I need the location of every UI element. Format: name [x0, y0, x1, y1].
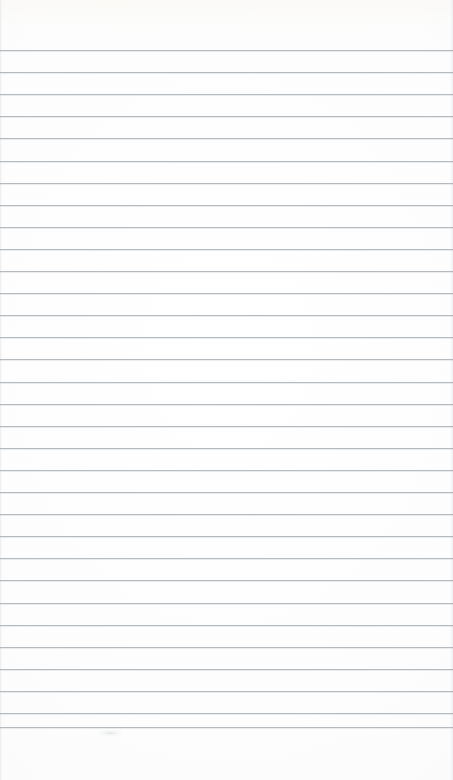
rule-line [0, 492, 453, 493]
rule-line [0, 227, 453, 228]
rule-line [0, 647, 453, 648]
rule-line [0, 382, 453, 383]
rule-line [0, 94, 453, 95]
rule-line [0, 625, 453, 626]
rule-line [0, 514, 453, 515]
rule-line [0, 161, 453, 162]
rule-line [0, 669, 453, 670]
ruled-lines-layer [0, 0, 453, 780]
rule-line [0, 603, 453, 604]
rule-line [0, 448, 453, 449]
rule-line [0, 558, 453, 559]
scanned-page [0, 0, 453, 780]
rule-line [0, 470, 453, 471]
rule-line [0, 249, 453, 250]
rule-line [0, 72, 453, 73]
rule-line [0, 426, 453, 427]
rule-line [0, 50, 453, 51]
rule-line [0, 713, 453, 714]
rule-line [0, 293, 453, 294]
rule-line [0, 337, 453, 338]
rule-line [0, 116, 453, 117]
rule-line [0, 536, 453, 537]
rule-line [0, 138, 453, 139]
rule-line [0, 691, 453, 692]
rule-line [0, 580, 453, 581]
rule-line [0, 205, 453, 206]
rule-line [0, 183, 453, 184]
rule-line [0, 359, 453, 360]
rule-line [0, 404, 453, 405]
rule-line [0, 315, 453, 316]
rule-line [0, 271, 453, 272]
rule-line [0, 727, 453, 728]
